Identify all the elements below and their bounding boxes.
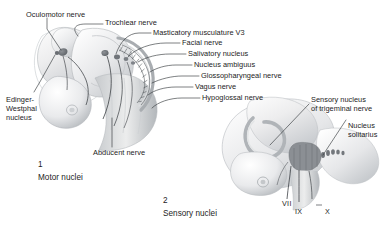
motor-brainstem-art — [34, 27, 157, 150]
label-trochlear-nerve: Trochlear nerve — [105, 19, 157, 28]
nucleus-salivatory — [131, 61, 135, 65]
anatomy-figure: Oculomotor nerve Trochlear nerve Mastica… — [0, 0, 391, 230]
panel-1-caption: Motor nuclei — [38, 173, 83, 183]
label-facial-nerve: Facial nerve — [182, 39, 223, 48]
sensory-ventral-strip — [289, 170, 319, 210]
label-hypoglossal-nerve: Hypoglossal nerve — [202, 94, 263, 103]
label-nerve-x: X — [325, 208, 330, 217]
label-vagus-nerve: Vagus nerve — [195, 83, 236, 92]
leader-ambiguus — [150, 65, 192, 72]
label-salivatory-nucleus: Salivatory nucleus — [188, 50, 248, 59]
leader-hypoglossal — [152, 98, 200, 108]
nucleus-masticatory — [114, 55, 120, 60]
label-nucleus-ambiguus: Nucleus ambiguus — [194, 61, 255, 70]
nucleus-edinger-westphal — [55, 51, 59, 55]
panel-2-caption: Sensory nuclei — [163, 209, 217, 219]
label-masticatory-musculature: Masticatory musculature V3 — [153, 29, 245, 38]
label-glossopharyngeal-nerve: Glossopharyngeal nerve — [201, 72, 282, 81]
label-sensory-trigeminal-line2: of trigeminal nerve — [311, 105, 372, 114]
panel-1-number: 1 — [38, 160, 43, 170]
sensory-olive-core — [261, 180, 266, 184]
sensory-brainstem-art — [222, 97, 379, 210]
brainstem-trunk — [95, 74, 157, 151]
olive-core — [69, 108, 74, 113]
label-nerve-vii: VII — [282, 200, 292, 209]
label-oculomotor-nerve: Oculomotor nerve — [26, 11, 85, 20]
label-abducent-nerve: Abducent nerve — [93, 149, 145, 158]
leader-vagus — [148, 87, 193, 95]
label-nerve-ix: IX — [295, 208, 302, 217]
panel-2-number: 2 — [163, 196, 168, 206]
nucleus-facial — [124, 57, 129, 61]
leader-glossopharyngeal — [152, 76, 199, 83]
label-edinger-westphal-line3: nucleus — [6, 114, 32, 123]
label-nucleus-solitarius-line2: solitarius — [348, 131, 377, 140]
